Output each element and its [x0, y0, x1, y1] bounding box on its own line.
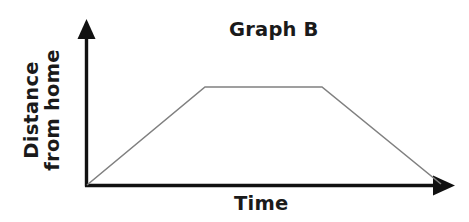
graph-figure: Graph B Time Distance from home — [0, 0, 469, 222]
chart-title: Graph B — [229, 20, 319, 41]
y-axis-label: Distance from home — [22, 30, 63, 190]
x-axis-arrowhead — [433, 176, 455, 196]
y-axis-arrowhead — [78, 19, 96, 39]
y-axis-label-line-1: Distance — [22, 30, 43, 190]
x-axis-label: Time — [234, 194, 288, 215]
distance-time-curve — [87, 87, 441, 185]
y-axis-label-line-2: from home — [43, 30, 64, 190]
